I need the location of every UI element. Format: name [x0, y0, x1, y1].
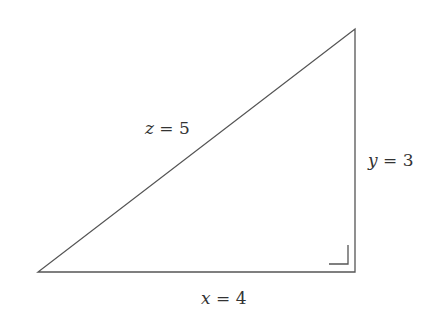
hypotenuse-variable: z	[145, 118, 154, 138]
horizontal-value: 4	[236, 288, 247, 308]
vertical-side-label: y = 3	[368, 152, 414, 169]
equals-sign: =	[378, 150, 403, 170]
horizontal-variable: x	[201, 288, 211, 308]
vertical-value: 3	[403, 150, 414, 170]
horizontal-side-label: x = 4	[201, 290, 246, 307]
vertical-variable: y	[368, 150, 378, 170]
hypotenuse-value: 5	[179, 118, 190, 138]
hypotenuse-label: z = 5	[145, 120, 190, 137]
equals-sign: =	[154, 118, 179, 138]
equals-sign: =	[211, 288, 236, 308]
right-angle-marker	[329, 245, 348, 264]
right-triangle	[38, 29, 355, 272]
